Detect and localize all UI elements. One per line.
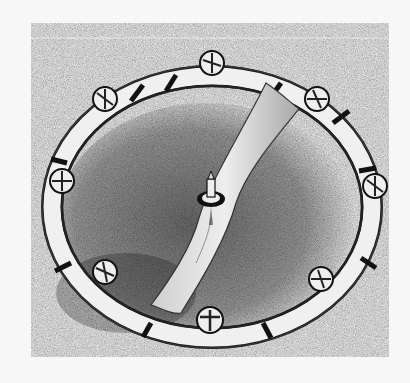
screw-icon xyxy=(305,87,329,111)
screw-icon xyxy=(93,260,117,284)
screw-icon xyxy=(309,267,333,291)
screw-icon xyxy=(363,174,387,198)
screw-icon xyxy=(93,87,117,111)
screw-icon xyxy=(197,307,223,333)
screw-icon xyxy=(200,51,224,75)
screw-icon xyxy=(50,169,74,193)
balance-wheel-photo xyxy=(31,23,389,357)
